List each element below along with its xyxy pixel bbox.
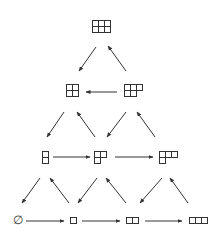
arrow-p32-to-p33	[108, 46, 126, 71]
arrow-p32-to-p21	[107, 112, 126, 137]
arrow-p1-to-p11	[50, 178, 69, 203]
arrow-p33-to-p22	[79, 47, 96, 71]
partition-node-empty: ∅	[13, 213, 23, 227]
arrow-p31-to-p32	[137, 112, 155, 137]
empty-set-symbol: ∅	[13, 213, 23, 227]
young-cell	[172, 152, 178, 158]
arrow-p31-to-p2	[140, 178, 162, 203]
partition-node-p3	[190, 218, 208, 224]
young-cell	[166, 152, 172, 158]
young-cell	[196, 218, 202, 224]
young-cell	[160, 152, 166, 158]
young-cell	[137, 85, 143, 91]
young-cell	[67, 91, 73, 97]
partition-node-p33	[93, 21, 111, 33]
young-cell	[95, 158, 101, 164]
young-cell	[131, 85, 137, 91]
young-cell	[71, 218, 77, 224]
partition-node-p22	[67, 85, 79, 97]
arrow-p21-to-p22	[77, 112, 95, 137]
young-cell	[95, 152, 101, 158]
young-cell	[93, 27, 99, 33]
young-cell	[125, 91, 131, 97]
partition-node-p31	[160, 152, 178, 164]
partition-node-p1	[71, 218, 77, 224]
young-cell	[160, 158, 166, 164]
young-cell	[43, 152, 49, 158]
young-cell	[125, 85, 131, 91]
arrow-p3-to-p31	[170, 178, 188, 203]
young-cell	[99, 27, 105, 33]
partition-node-p21	[95, 152, 107, 164]
young-cell	[127, 218, 133, 224]
young-cell	[105, 21, 111, 27]
young-cell	[93, 21, 99, 27]
partition-node-p11	[43, 152, 49, 164]
young-cell	[99, 21, 105, 27]
young-cell	[105, 27, 111, 33]
arrow-p2-to-p21	[106, 178, 126, 203]
edges-group	[22, 46, 188, 221]
young-cell	[73, 91, 79, 97]
young-cell	[101, 152, 107, 158]
young-lattice-diagram: ∅	[0, 0, 222, 246]
young-cell	[133, 218, 139, 224]
young-cell	[202, 218, 208, 224]
young-cell	[131, 91, 137, 97]
arrow-p11-to-empty	[22, 178, 40, 203]
partition-node-p32	[125, 85, 143, 97]
young-cell	[190, 218, 196, 224]
young-cell	[67, 85, 73, 91]
nodes-group: ∅	[13, 21, 208, 228]
arrow-p22-to-p11	[47, 112, 64, 137]
arrow-p21-to-p1	[78, 178, 97, 203]
young-cell	[43, 158, 49, 164]
partition-node-p2	[127, 218, 139, 224]
young-cell	[73, 85, 79, 91]
